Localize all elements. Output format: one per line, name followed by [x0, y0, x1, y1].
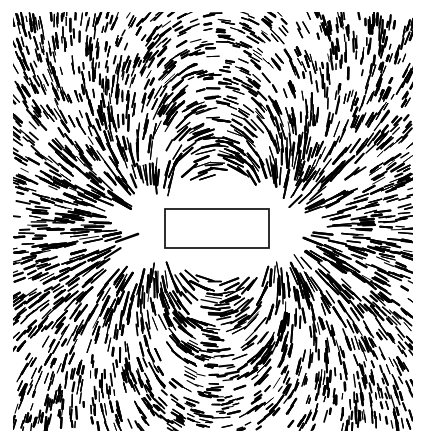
- magnetic-field-pattern: [0, 0, 427, 443]
- bar-magnet: [165, 209, 269, 248]
- iron-filings-image: [0, 0, 427, 443]
